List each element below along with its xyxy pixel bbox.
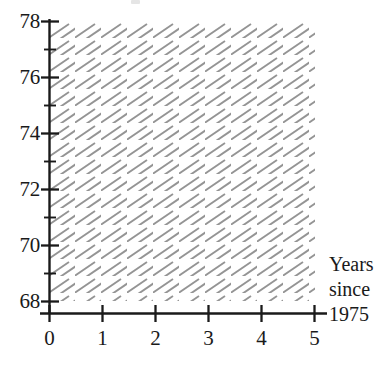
y-tick-label-70: 70 [6,235,40,256]
scan-artifact [131,0,140,4]
y-tick-label-76: 76 [6,67,40,88]
x-tick-label-0: 0 [35,328,64,349]
x-tick-label-4: 4 [247,328,276,349]
axes-svg [0,0,383,366]
x-axis-label: Years since 1975 [329,252,383,327]
x-axis-label-line-3: 1975 [329,302,383,327]
x-tick-label-2: 2 [141,328,170,349]
y-tick-label-78: 78 [6,11,40,32]
y-tick-label-74: 74 [6,123,40,144]
chart-figure: 78 76 74 72 70 68 0 1 2 3 4 5 Years sinc… [0,0,383,366]
x-tick-label-1: 1 [88,328,117,349]
x-axis-label-line-1: Years [329,252,383,277]
x-tick-label-3: 3 [194,328,223,349]
y-tick-label-72: 72 [6,179,40,200]
y-tick-label-68: 68 [6,291,40,312]
x-axis-label-line-2: since [329,277,383,302]
x-tick-label-5: 5 [300,328,329,349]
